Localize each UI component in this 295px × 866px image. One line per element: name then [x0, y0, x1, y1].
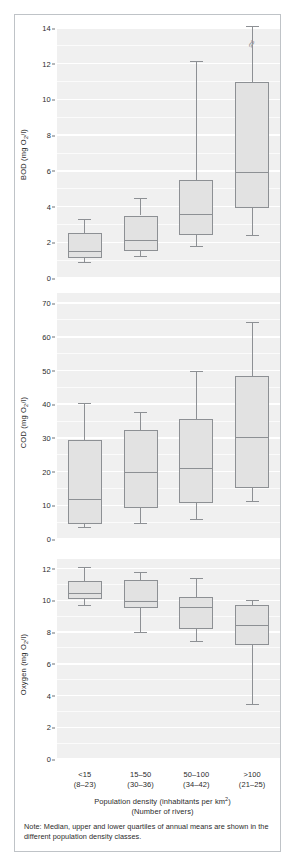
panel-cod: 010203040506070 COD (mg O2/l)	[0, 285, 295, 553]
y-axis-title-text: Oxygen (mg O2/l)	[19, 634, 28, 695]
whisker-upper-stem	[84, 219, 85, 233]
median-line	[179, 607, 213, 608]
y-tick-mark	[52, 438, 55, 439]
whisker-lower-cap	[134, 256, 147, 257]
y-tick-cod-30: 30	[31, 433, 51, 442]
whisker-lower-cap	[190, 519, 203, 520]
boxplot-bod-1	[68, 28, 102, 278]
whisker-upper-stem	[252, 26, 253, 81]
box-iqr	[235, 376, 269, 488]
whisker-lower-cap	[246, 235, 259, 236]
whisker-upper-cap	[134, 198, 147, 199]
whisker-upper-cap	[78, 219, 91, 220]
whisker-upper-cap	[134, 572, 147, 573]
y-tick-mark	[52, 696, 55, 697]
box-iqr	[179, 180, 213, 235]
y-tick-bod-6: 6	[31, 166, 51, 175]
whisker-upper-stem	[84, 403, 85, 440]
x-category-class: 50–100	[184, 770, 210, 779]
whisker-upper-stem	[196, 61, 197, 180]
whisker-upper-stem	[140, 572, 141, 580]
whisker-upper-cap	[190, 578, 203, 579]
y-tick-oxy-12: 12	[31, 564, 51, 573]
y-tick-cod-60: 60	[31, 332, 51, 341]
boxplot-oxy-1	[68, 559, 102, 759]
y-tick-cod-50: 50	[31, 366, 51, 375]
whisker-upper-cap	[246, 26, 259, 27]
whisker-lower-cap	[190, 641, 203, 642]
x-axis-title-line1: Population density (inhabitants per km2)	[94, 797, 231, 806]
y-axis-title-oxygen: Oxygen (mg O2/l)	[19, 620, 28, 710]
x-category-class: >100	[243, 770, 260, 779]
y-tick-mark	[52, 337, 55, 338]
y-tick-oxy-10: 10	[31, 596, 51, 605]
axis-break-icon: ≈	[244, 35, 261, 53]
whisker-lower-stem	[196, 235, 197, 246]
y-tick-mark	[52, 28, 55, 29]
y-tick-bod-4: 4	[31, 202, 51, 211]
boxplot-cod-2	[124, 293, 158, 539]
median-line	[124, 601, 158, 602]
whisker-lower-cap	[134, 523, 147, 524]
y-tick-oxy-4: 4	[31, 691, 51, 700]
boxplot-oxy-2	[124, 559, 158, 759]
median-line	[235, 172, 269, 173]
x-category-class: <15	[78, 770, 91, 779]
y-tick-mark	[52, 278, 55, 279]
whisker-lower-stem	[252, 208, 253, 235]
y-axis-title-text: BOD (mg O2/l)	[19, 129, 28, 180]
median-line	[124, 472, 158, 473]
median-line	[179, 468, 213, 469]
y-tick-bod-2: 2	[31, 238, 51, 247]
box-iqr	[124, 430, 158, 508]
boxplot-cod-4	[235, 293, 269, 539]
y-tick-bod-12: 12	[31, 59, 51, 68]
y-tick-cod-0: 0	[31, 535, 51, 544]
y-tick-mark	[52, 64, 55, 65]
y-tick-mark	[52, 303, 55, 304]
y-tick-mark	[52, 759, 55, 760]
whisker-lower-cap	[246, 704, 259, 705]
y-tick-bod-10: 10	[31, 95, 51, 104]
whisker-lower-cap	[190, 246, 203, 247]
y-tick-mark	[52, 171, 55, 172]
y-tick-mark	[52, 569, 55, 570]
whisker-upper-stem	[84, 567, 85, 581]
box-iqr	[68, 440, 102, 524]
median-line	[68, 499, 102, 500]
whisker-lower-stem	[252, 645, 253, 705]
whisker-lower-cap	[78, 262, 91, 263]
y-tick-mark	[52, 242, 55, 243]
y-tick-mark	[52, 539, 55, 540]
whisker-lower-cap	[134, 632, 147, 633]
whisker-lower-stem	[252, 488, 253, 501]
y-tick-mark	[52, 632, 55, 633]
whisker-upper-cap	[134, 412, 147, 413]
whisker-upper-stem	[196, 578, 197, 597]
y-axis-title-cod: COD (mg O2/l)	[19, 378, 28, 468]
whisker-upper-cap	[246, 600, 259, 601]
whisker-upper-stem	[140, 412, 141, 431]
whisker-lower-stem	[140, 508, 141, 523]
x-axis-title: Population density (inhabitants per km2)…	[40, 797, 285, 817]
y-tick-mark	[52, 727, 55, 728]
boxplot-oxy-3	[179, 559, 213, 759]
boxplot-bod-3	[179, 28, 213, 278]
whisker-upper-stem	[140, 198, 141, 216]
y-tick-mark	[52, 404, 55, 405]
median-line	[235, 437, 269, 438]
y-tick-cod-20: 20	[31, 467, 51, 476]
box-iqr	[124, 580, 158, 609]
box-iqr	[68, 233, 102, 258]
y-tick-bod-0: 0	[31, 274, 51, 283]
figure-note: Note: Median, upper and lower quartiles …	[24, 822, 272, 842]
boxplot-bod-2	[124, 28, 158, 278]
panel-bod: 02468101214 BOD (mg O2/l) ≈	[0, 0, 295, 285]
x-axis-title-line2: (Number of rivers)	[40, 807, 285, 817]
y-tick-bod-14: 14	[31, 24, 51, 33]
y-axis-title-text: COD (mg O2/l)	[19, 397, 28, 449]
y-tick-cod-10: 10	[31, 501, 51, 510]
box-iqr	[235, 82, 269, 209]
y-tick-oxy-0: 0	[31, 755, 51, 764]
box-iqr	[124, 216, 158, 252]
